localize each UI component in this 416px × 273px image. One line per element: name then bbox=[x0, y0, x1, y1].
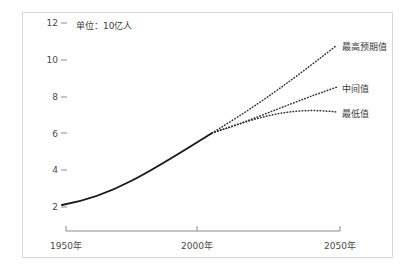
x-axis-line bbox=[66, 226, 340, 231]
series-historical-line bbox=[62, 133, 212, 205]
plot-area bbox=[0, 0, 416, 273]
series-middle-line bbox=[212, 87, 337, 133]
population-projection-chart: 单位：10亿人 12 10 8 6 4 2 1950年 2000年 2050年 … bbox=[0, 0, 416, 273]
y-axis-ticks bbox=[61, 23, 67, 207]
series-highest-line bbox=[212, 45, 337, 133]
